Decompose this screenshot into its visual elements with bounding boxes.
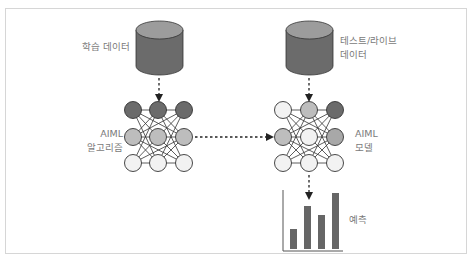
test-data-label-line2: 데이터 [340,48,430,62]
test-data-label-line1: 테스트/라이브 [340,34,430,48]
prediction-label: 예측 [349,213,389,227]
prediction-bar-chart-icon [283,190,343,251]
training-database-icon [136,21,183,75]
model-label-line2: 모델 [355,141,415,155]
training-data-label: 학습 데이터 [60,40,130,54]
algorithm-label-line1: AIML [60,127,123,141]
test-data-label: 테스트/라이브 데이터 [340,34,430,62]
algorithm-label-line2: 알고리즘 [60,141,123,155]
test-database-icon [286,21,333,75]
model-label-line1: AIML [355,127,415,141]
model-label: AIML 모델 [355,127,415,155]
algorithm-label: AIML 알고리즘 [60,127,123,155]
algorithm-network-icon [125,102,193,172]
model-network-icon [275,102,344,172]
